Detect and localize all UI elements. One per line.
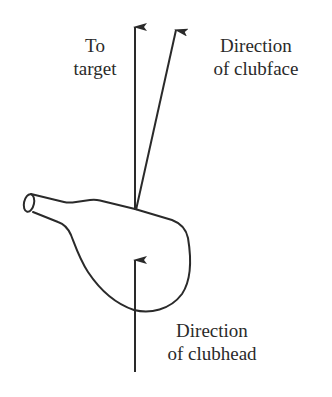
direction-of-clubface-label: Direction of clubface <box>200 34 312 80</box>
hosel-end <box>22 193 36 213</box>
direction-of-clubface-label-line2: of clubface <box>200 57 312 80</box>
clubhead-shape <box>22 193 190 311</box>
direction-of-clubface-label-line1: Direction <box>200 34 312 57</box>
to-target-label-line2: target <box>62 57 128 80</box>
direction-of-clubhead-label-line2: of clubhead <box>152 342 272 365</box>
to-target-label: To target <box>62 34 128 80</box>
to-target-label-line1: To <box>62 34 128 57</box>
direction-of-clubhead-label-line1: Direction <box>152 319 272 342</box>
direction-of-clubhead-label: Direction of clubhead <box>152 319 272 365</box>
clubface-direction-arrow <box>136 30 176 210</box>
